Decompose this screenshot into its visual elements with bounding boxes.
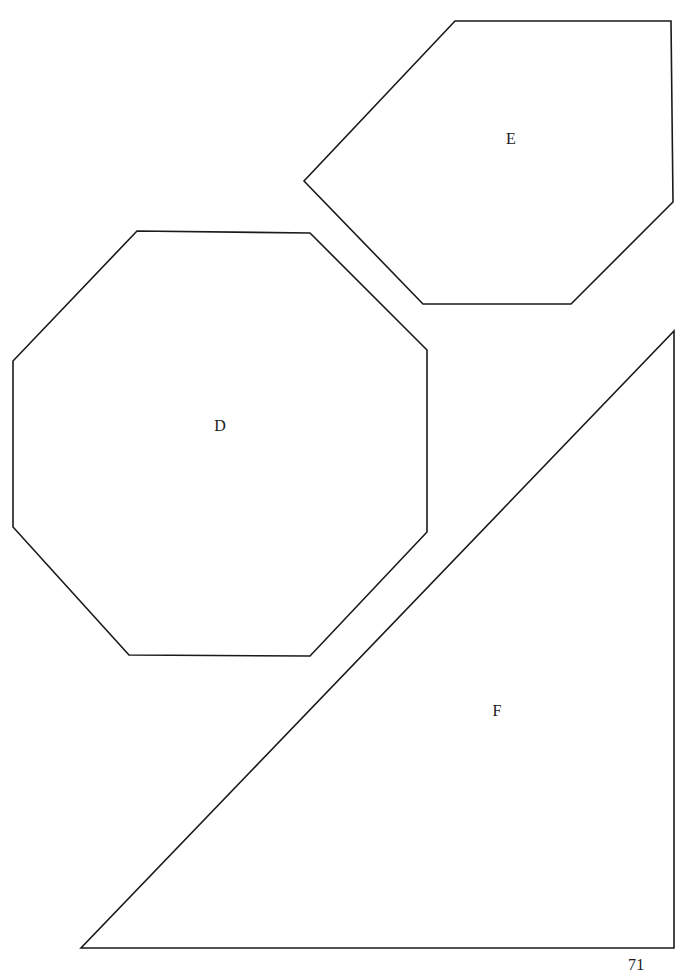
hexagon-shape-e[interactable] (304, 21, 673, 304)
shape-label-d: D (214, 417, 226, 434)
figures-canvas: D E F (0, 0, 688, 980)
worksheet-page: D E F 71 (0, 0, 688, 980)
shape-label-f: F (493, 702, 502, 719)
triangle-shape-f[interactable] (81, 331, 674, 948)
shape-label-e: E (506, 130, 516, 147)
page-number: 71 (628, 956, 645, 974)
octagon-shape-d[interactable] (13, 231, 427, 656)
